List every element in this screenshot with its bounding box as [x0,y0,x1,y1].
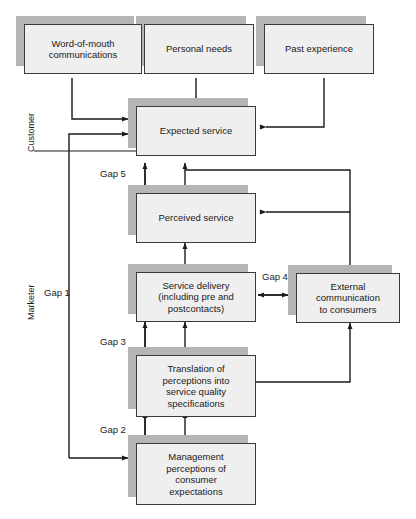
zone-label-customer: Customer [26,113,36,152]
gap-label-1: Gap 1 [44,287,70,298]
node-word-of-mouth[interactable]: Word-of-mouth communications [24,24,142,74]
node-label: Expected service [160,125,232,137]
node-label: Translation of perceptions into service … [162,363,229,409]
node-label: Personal needs [166,43,232,55]
node-expected-service[interactable]: Expected service [136,106,256,156]
zone-label-marketer: Marketer [26,284,36,320]
node-label: External communication to consumers [316,281,380,316]
node-label: Word-of-mouth communications [49,38,118,61]
node-perceived-service[interactable]: Perceived service [136,193,256,243]
node-personal-needs[interactable]: Personal needs [144,24,254,74]
gap-label-4: Gap 4 [262,271,288,282]
node-label: Perceived service [159,212,234,224]
gap-label-3: Gap 3 [100,336,126,347]
node-label: Past experience [285,43,353,55]
gap-label-5: Gap 5 [100,168,126,179]
node-service-delivery[interactable]: Service delivery (including pre and post… [136,272,256,322]
node-external-communication[interactable]: External communication to consumers [296,273,400,323]
node-past-experience[interactable]: Past experience [264,24,374,74]
node-management-perceptions[interactable]: Management perceptions of consumer expec… [136,443,256,505]
node-label: Management perceptions of consumer expec… [166,451,226,497]
node-translation[interactable]: Translation of perceptions into service … [136,355,256,417]
diagram-canvas: Customer Marketer Word-of-mouth communic… [0,0,416,519]
gap-label-2: Gap 2 [100,424,126,435]
node-label: Service delivery (including pre and post… [158,280,234,315]
